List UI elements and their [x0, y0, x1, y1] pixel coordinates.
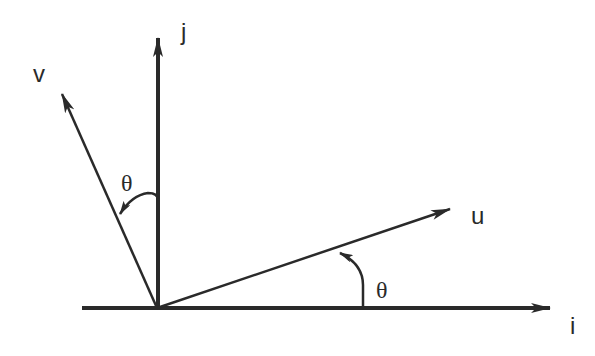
u-vector [157, 209, 450, 308]
theta-v-label: θ [121, 171, 133, 195]
v-vector-label: v [33, 62, 45, 86]
v-vector [62, 94, 157, 308]
diagram-canvas: j v u i θ θ [0, 0, 595, 356]
theta-v-arc [120, 193, 158, 214]
u-vector-label: u [471, 204, 484, 228]
theta-u-arc [340, 253, 363, 308]
theta-u-label: θ [376, 278, 388, 302]
j-axis-label: j [181, 20, 186, 44]
vector-diagram [0, 0, 595, 356]
i-axis-label: i [570, 314, 575, 338]
